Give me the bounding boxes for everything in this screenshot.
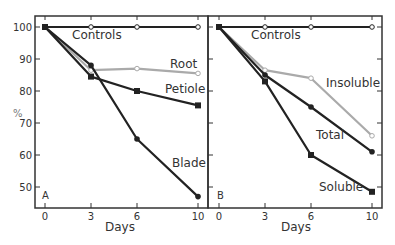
open-circle-marker — [309, 76, 314, 81]
y-tick-label: 80 — [19, 86, 32, 97]
y-tick-label: 50 — [19, 182, 32, 193]
series-label: Total — [315, 128, 344, 142]
panel-letter: B — [217, 190, 224, 201]
open-circle-marker — [309, 25, 314, 30]
series-label: Insoluble — [326, 76, 380, 90]
x-tick-label: 0 — [42, 211, 48, 222]
series-label: Soluble — [319, 180, 363, 194]
open-circle-marker — [196, 71, 201, 76]
filled-circle-marker — [88, 63, 94, 69]
filled-square-marker — [308, 152, 314, 158]
filled-circle-marker — [134, 136, 140, 142]
x-tick-label: 10 — [366, 211, 379, 222]
y-axis-title: % — [13, 108, 23, 119]
x-tick-label: 3 — [88, 211, 94, 222]
x-axis-title: Days — [105, 220, 135, 234]
y-tick-label: 100 — [13, 22, 32, 33]
open-circle-marker — [370, 25, 375, 30]
open-circle-marker — [135, 66, 140, 71]
y-axis-ticks — [208, 27, 382, 187]
panel-b-series: ControlsInsolubleTotalSoluble — [216, 24, 380, 195]
panel-letter: A — [42, 190, 49, 201]
filled-circle-marker — [262, 72, 268, 78]
panel-a: 5060708090100 03610 ControlsRootPetioleB… — [13, 16, 208, 234]
series-label: Controls — [251, 28, 301, 42]
filled-square-marker — [195, 102, 201, 108]
open-circle-marker — [370, 134, 375, 139]
series-controls: Controls — [43, 25, 201, 42]
x-tick-label: 3 — [262, 211, 268, 222]
open-circle-marker — [135, 25, 140, 30]
panel-a-series: ControlsRootPetioleBlade — [42, 24, 206, 199]
series-label: Root — [170, 57, 197, 71]
chart-canvas: 5060708090100 03610 ControlsRootPetioleB… — [0, 0, 395, 245]
y-tick-label: 90 — [19, 54, 32, 65]
filled-square-marker — [88, 74, 94, 80]
filled-square-marker — [369, 189, 375, 195]
series-label: Blade — [172, 156, 206, 170]
y-tick-label: 60 — [19, 150, 32, 161]
x-tick-label: 0 — [216, 211, 222, 222]
series-label: Controls — [72, 28, 122, 42]
series-controls: Controls — [217, 25, 375, 42]
filled-circle-marker — [369, 149, 375, 155]
y-tick-label: 70 — [19, 118, 32, 129]
panel-b: 03610 ControlsInsolubleTotalSoluble B Da… — [208, 16, 382, 234]
filled-square-marker — [134, 88, 140, 94]
figure: 5060708090100 03610 ControlsRootPetioleB… — [0, 0, 395, 245]
filled-circle-marker — [195, 194, 201, 200]
filled-circle-marker — [42, 24, 48, 30]
x-axis-title: Days — [281, 220, 311, 234]
filled-circle-marker — [308, 104, 314, 110]
filled-square-marker — [262, 78, 268, 84]
series-label: Petiole — [165, 82, 205, 96]
filled-square-marker — [216, 24, 222, 30]
x-tick-label: 10 — [192, 211, 205, 222]
open-circle-marker — [196, 25, 201, 30]
y-axis-ticks: 5060708090100 — [13, 22, 40, 193]
